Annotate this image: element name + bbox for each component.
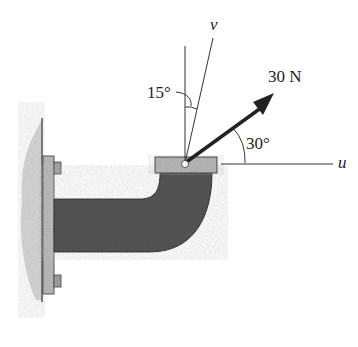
v-axis-label: v bbox=[210, 16, 218, 33]
wall bbox=[21, 118, 42, 302]
diagram-canvas: v 30 N 15° 30° u bbox=[0, 0, 358, 347]
bracket-elbow bbox=[54, 173, 212, 252]
angle-arc-30 bbox=[233, 128, 245, 163]
angle-30-label: 30° bbox=[246, 135, 270, 152]
angle-leader-15 bbox=[176, 92, 191, 106]
angle-arc-15 bbox=[185, 107, 197, 109]
force-label: 30 N bbox=[268, 68, 302, 85]
pivot-point bbox=[182, 161, 189, 168]
angle-15-label: 15° bbox=[147, 84, 171, 101]
u-axis-label: u bbox=[338, 154, 347, 171]
wall-flange bbox=[43, 156, 54, 294]
